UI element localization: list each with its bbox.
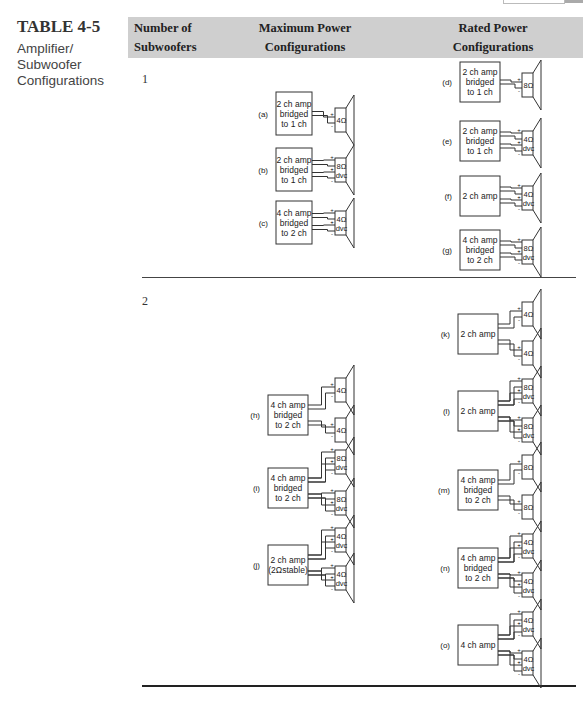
plus-sign: + [330, 458, 334, 464]
plus-sign: + [330, 574, 334, 580]
plus-sign: + [517, 375, 521, 381]
dvc-label: dvc [523, 431, 535, 440]
amplifier-text: to 2 ch [275, 420, 301, 430]
amplifier-text: 2 ch amp [463, 67, 498, 77]
plus-sign: + [517, 659, 521, 665]
speaker-icon: 4Ωdvc [522, 560, 541, 610]
diagram-f: (f)2 ch amp+-+-4Ωdvc [444, 173, 541, 223]
plus-sign: + [517, 458, 521, 464]
minus-sign: - [331, 548, 333, 554]
minus-sign: - [518, 356, 520, 362]
amplifier-text: to 2 ch [465, 495, 491, 505]
impedance-label: 8Ω [337, 162, 347, 171]
amplifier-text: 2 ch amp [277, 155, 312, 165]
speaker-icon: 4Ωdvc [522, 173, 541, 223]
diagram-label: (c) [259, 219, 269, 228]
speaker-icon: 4Ω [335, 95, 354, 145]
amplifier-text: bridged [280, 109, 309, 119]
plus-sign: + [517, 248, 521, 254]
impedance-label: 4Ω [524, 655, 534, 664]
dvc-label: dvc [336, 579, 348, 588]
minus-sign: - [518, 554, 520, 560]
diagram-n: (n)4 ch ampbridgedto 2 ch+-+-4Ωdvc+-+-4Ω… [440, 521, 541, 610]
impedance-label: 4Ω [337, 215, 347, 224]
speaker-icon: 8Ω [522, 60, 541, 110]
impedance-label: 4Ω [524, 190, 534, 199]
plus-sign: + [517, 608, 521, 614]
amplifier-text: 4 ch amp [271, 473, 306, 483]
diagram-g: (g)4 ch ampbridgedto 2 ch+-+-8Ωdvc [442, 227, 541, 277]
diagram-label: (j) [253, 561, 260, 570]
plus-sign: + [517, 344, 521, 350]
impedance-label: 4Ω [524, 135, 534, 144]
diagram-label: (b) [258, 166, 268, 175]
amplifier-text: 4 ch amp [463, 235, 498, 245]
plus-sign: + [330, 536, 334, 542]
amplifier-text: to 2 ch [275, 493, 301, 503]
plus-sign: + [517, 620, 521, 626]
minus-sign: - [518, 593, 520, 599]
amplifier-text: 2 ch amp [463, 191, 498, 201]
plus-sign: + [517, 139, 521, 145]
dvc-label: dvc [523, 253, 535, 262]
minus-sign: - [331, 231, 333, 237]
diagram-j: (j)2 ch amp(2Ωstable)+-+-4Ωdvc+-+-4Ωdvc [253, 515, 354, 603]
amplifier-text: to 1 ch [281, 119, 307, 129]
amplifier-text: 4 ch amp [277, 208, 312, 218]
plus-sign: + [330, 154, 334, 160]
amplifier-text: bridged [464, 563, 493, 573]
dvc-label: dvc [336, 541, 348, 550]
diagram-label: (k) [441, 330, 451, 339]
minus-sign: - [518, 470, 520, 476]
plus-sign: + [330, 421, 334, 427]
amplifier-text: 2 ch amp [271, 555, 306, 565]
minus-sign: - [518, 260, 520, 266]
minus-sign: - [518, 317, 520, 323]
speaker-icon: 8Ω [522, 482, 541, 532]
speaker-icon: 4Ω [335, 405, 354, 455]
amplifier-text: bridged [466, 245, 495, 255]
minus-sign: - [518, 632, 520, 638]
plus-sign: + [517, 387, 521, 393]
amplifier-text: 2 ch amp [277, 99, 312, 109]
plus-sign: + [330, 446, 334, 452]
amplifier-text: bridged [280, 218, 309, 228]
diagram-b: (b)2 ch ampbridgedto 1 ch+-+-8Ωdvc [258, 145, 354, 195]
impedance-label: 4Ω [524, 616, 534, 625]
plus-sign: + [330, 207, 334, 213]
diagram-label: (g) [442, 246, 452, 255]
plus-sign: + [330, 499, 334, 505]
impedance-label: 4Ω [337, 570, 347, 579]
amplifier-text: 4 ch amp [461, 553, 496, 563]
amplifier-text: to 1 ch [467, 146, 493, 156]
minus-sign: - [518, 88, 520, 94]
plus-sign: + [517, 647, 521, 653]
diagram-h: (h)4 ch ampbridgedto 2 ch+-4Ω+-4Ω [250, 365, 354, 455]
diagram-e: (e)2 ch ampbridgedto 1 ch+-+-4Ωdvc [442, 118, 541, 168]
minus-sign: - [518, 438, 520, 444]
dvc-label: dvc [523, 586, 535, 595]
minus-sign: - [518, 671, 520, 677]
amplifier-text: 4 ch amp [461, 640, 496, 650]
dvc-label: dvc [336, 224, 348, 233]
impedance-label: 8Ω [337, 495, 347, 504]
amplifier-text: 2 ch amp [461, 406, 496, 416]
diagram-m: (m)4 ch ampbridgedto 2 ch+-8Ω+-8Ω [438, 442, 541, 532]
diagram-label: (m) [438, 486, 450, 495]
diagram-k: (k)2 ch amp+-4Ω+-4Ω [441, 289, 541, 378]
diagram-label: (h) [250, 411, 260, 420]
minus-sign: - [518, 206, 520, 212]
speaker-icon: 8Ωdvc [522, 227, 541, 277]
dvc-label: dvc [523, 664, 535, 673]
speaker-icon: 4Ωdvc [335, 198, 354, 248]
dvc-label: dvc [523, 199, 535, 208]
dvc-label: dvc [336, 463, 348, 472]
minus-sign: - [331, 586, 333, 592]
speaker-icon: 4Ω [522, 289, 541, 339]
amplifier-text: to 2 ch [281, 228, 307, 238]
diagram-l: (l)2 ch amp+-+-8Ωdvc+-+-8Ωdvc [443, 366, 541, 455]
diagram-label: (e) [442, 137, 452, 146]
speaker-icon: 4Ω [335, 365, 354, 415]
plus-sign: + [517, 194, 521, 200]
dvc-label: dvc [523, 392, 535, 401]
